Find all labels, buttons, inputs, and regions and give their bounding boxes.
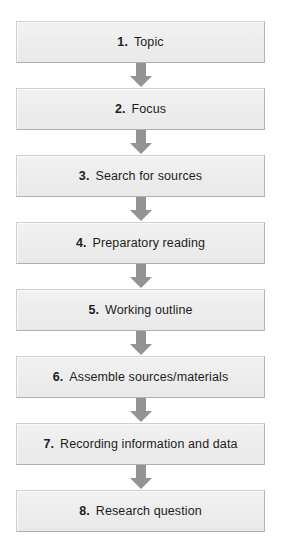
- flowchart-step-7[interactable]: 7. Recording information and data: [16, 423, 265, 465]
- arrow-down-icon: [129, 63, 153, 88]
- step-number: 4.: [76, 236, 87, 250]
- step-text: Focus: [132, 102, 167, 116]
- arrow-down-icon: [129, 197, 153, 222]
- arrow-down-icon: [129, 398, 153, 423]
- flowchart-connector-4-5: [0, 264, 281, 289]
- flowchart-step-3[interactable]: 3. Search for sources: [16, 155, 265, 197]
- step-label: 1. Topic: [117, 35, 163, 49]
- flowchart-step-4[interactable]: 4. Preparatory reading: [16, 222, 265, 264]
- step-text: Preparatory reading: [93, 236, 205, 250]
- step-label: 3. Search for sources: [79, 169, 202, 183]
- step-number: 8.: [79, 504, 90, 518]
- step-number: 3.: [79, 169, 90, 183]
- arrow-down-icon: [129, 264, 153, 289]
- step-text: Recording information and data: [60, 437, 237, 451]
- flowchart-step-1[interactable]: 1. Topic: [16, 21, 265, 63]
- flowchart-step-6[interactable]: 6. Assemble sources/materials: [16, 356, 265, 398]
- arrow-down-icon: [129, 331, 153, 356]
- flowchart-diagram: 1. Topic 2. Focus 3. Search for sources: [0, 0, 281, 545]
- step-label: 2. Focus: [115, 102, 166, 116]
- flowchart-connector-5-6: [0, 331, 281, 356]
- step-box[interactable]: 1. Topic: [16, 21, 265, 63]
- step-box[interactable]: 3. Search for sources: [16, 155, 265, 197]
- step-number: 7.: [43, 437, 54, 451]
- flowchart-connector-7-8: [0, 465, 281, 490]
- step-box[interactable]: 6. Assemble sources/materials: [16, 356, 265, 398]
- flowchart-connector-2-3: [0, 130, 281, 155]
- flowchart-connector-6-7: [0, 398, 281, 423]
- step-number: 1.: [117, 35, 128, 49]
- step-label: 8. Research question: [79, 504, 202, 518]
- step-box[interactable]: 4. Preparatory reading: [16, 222, 265, 264]
- arrow-down-icon: [129, 130, 153, 155]
- step-label: 6. Assemble sources/materials: [53, 370, 229, 384]
- step-box[interactable]: 2. Focus: [16, 88, 265, 130]
- step-text: Research question: [96, 504, 202, 518]
- step-number: 5.: [88, 303, 99, 317]
- step-text: Topic: [134, 35, 164, 49]
- step-label: 7. Recording information and data: [43, 437, 237, 451]
- flowchart-step-2[interactable]: 2. Focus: [16, 88, 265, 130]
- arrow-down-icon: [129, 465, 153, 490]
- flowchart-step-8[interactable]: 8. Research question: [16, 490, 265, 532]
- step-box[interactable]: 7. Recording information and data: [16, 423, 265, 465]
- step-label: 4. Preparatory reading: [76, 236, 205, 250]
- flowchart-connector-1-2: [0, 63, 281, 88]
- step-box[interactable]: 8. Research question: [16, 490, 265, 532]
- step-text: Search for sources: [95, 169, 202, 183]
- step-number: 2.: [115, 102, 126, 116]
- flowchart-step-5[interactable]: 5. Working outline: [16, 289, 265, 331]
- step-text: Working outline: [105, 303, 192, 317]
- step-label: 5. Working outline: [88, 303, 192, 317]
- step-box[interactable]: 5. Working outline: [16, 289, 265, 331]
- step-number: 6.: [53, 370, 64, 384]
- step-text: Assemble sources/materials: [69, 370, 228, 384]
- flowchart-connector-3-4: [0, 197, 281, 222]
